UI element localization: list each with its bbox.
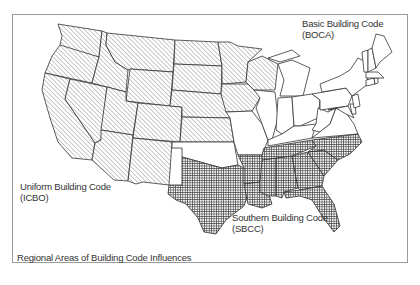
label-boca-abbr: (BOCA) [302, 29, 383, 40]
state-nd [174, 40, 222, 66]
label-sbcc-name: Southern Building Code [232, 212, 328, 223]
label-icbo-abbr: (ICBO) [20, 192, 111, 203]
label-boca-name: Basic Building Code [302, 18, 383, 29]
state-oh [292, 94, 320, 126]
state-sd [172, 64, 222, 94]
state-wi [246, 56, 278, 90]
label-icbo-name: Uniform Building Code [20, 181, 111, 192]
state-wy [126, 69, 173, 106]
label-sbcc-abbr: (SBCC) [232, 223, 328, 234]
label-icbo: Uniform Building Code (ICBO) [20, 181, 111, 203]
state-co [133, 103, 182, 142]
state-ks [180, 117, 234, 142]
us-map [0, 0, 420, 285]
map-caption: Regional Areas of Building Code Influenc… [17, 252, 191, 263]
label-sbcc: Southern Building Code (SBCC) [232, 212, 328, 234]
state-ms [260, 158, 276, 196]
label-boca: Basic Building Code (BOCA) [302, 18, 383, 40]
state-nm [128, 138, 172, 185]
state-ma [366, 72, 384, 78]
state-ri [374, 78, 378, 84]
